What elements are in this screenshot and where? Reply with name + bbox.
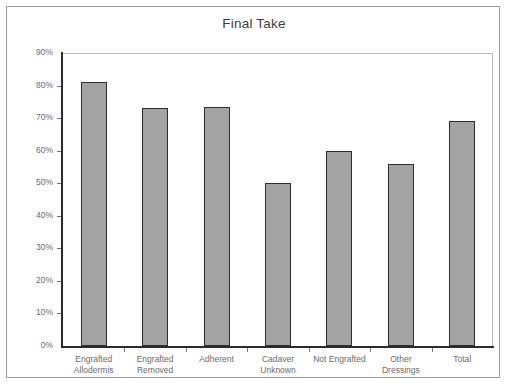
bar xyxy=(142,108,168,346)
y-axis-tick-label: 80% xyxy=(9,80,53,90)
y-axis-tick-mark xyxy=(57,216,61,217)
y-axis-tick-label: 10% xyxy=(9,307,53,317)
y-axis-tick-mark xyxy=(57,248,61,249)
y-axis-tick-label: 40% xyxy=(9,210,53,220)
bar xyxy=(81,82,107,346)
x-axis-category-label-line: Dressings xyxy=(361,365,440,376)
y-axis-tick-label: 20% xyxy=(9,275,53,285)
x-axis-category-label: Total xyxy=(423,354,502,365)
y-axis-tick-mark xyxy=(57,183,61,184)
y-axis-tick-mark xyxy=(57,118,61,119)
x-axis-category-label-line: Unknown xyxy=(238,365,317,376)
chart-frame: Final Take 90%80%70%60%50%40%30%20%10%0%… xyxy=(6,6,500,378)
y-axis-tick-label: 60% xyxy=(9,145,53,155)
x-axis-tick-mark xyxy=(432,348,433,352)
y-axis-tick-label: 90% xyxy=(9,47,53,57)
y-axis-tick-mark xyxy=(57,151,61,152)
x-axis-tick-mark xyxy=(186,348,187,352)
y-axis-tick-label: 70% xyxy=(9,112,53,122)
bar xyxy=(388,164,414,346)
y-axis-tick-mark xyxy=(57,281,61,282)
x-axis-line xyxy=(61,346,494,348)
bar xyxy=(449,121,475,346)
y-axis-line xyxy=(61,52,63,348)
bar xyxy=(204,107,230,346)
chart-title: Final Take xyxy=(7,16,501,31)
y-axis-tick-mark xyxy=(57,86,61,87)
y-axis-tick-mark xyxy=(57,313,61,314)
x-axis-tick-mark xyxy=(124,348,125,352)
x-axis-tick-mark xyxy=(309,348,310,352)
y-axis-tick-label: 30% xyxy=(9,242,53,252)
y-axis-tick-label: 50% xyxy=(9,177,53,187)
x-axis-tick-mark xyxy=(247,348,248,352)
x-axis-category-label-line: Removed xyxy=(115,365,194,376)
x-axis-tick-mark xyxy=(370,348,371,352)
bar xyxy=(326,151,352,346)
y-axis-tick-label: 0% xyxy=(9,340,53,350)
bar xyxy=(265,183,291,346)
x-axis-category-label-line: Total xyxy=(423,354,502,365)
